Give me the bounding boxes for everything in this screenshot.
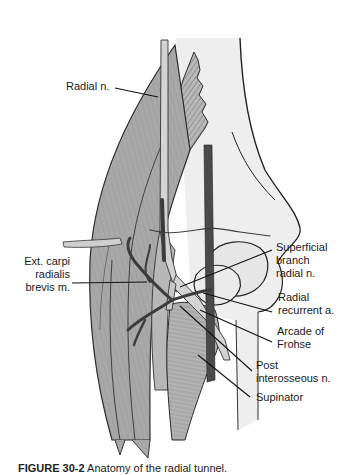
label-radial-nerve: Radial n. [66,80,109,93]
label-ext-carpi-radialis-brevis: Ext. carpi radialis brevis m. [18,255,70,294]
label-arcade-of-frohse: Arcade of Frohse [277,325,324,351]
caption-text: Anatomy of the radial tunnel. [85,462,227,474]
muscle-tips [115,440,150,458]
label-superficial-branch-radial-nerve: Superficial branch radial n. [276,241,327,280]
label-post-interosseous-nerve: Post interosseous n. [256,359,331,385]
label-radial-recurrent-artery: Radial recurrent a. [278,291,334,317]
label-supinator: Supinator [256,391,303,404]
figure-caption: FIGURE 30-2 Anatomy of the radial tunnel… [18,462,227,475]
figure-number: FIGURE 30-2 [18,462,85,474]
